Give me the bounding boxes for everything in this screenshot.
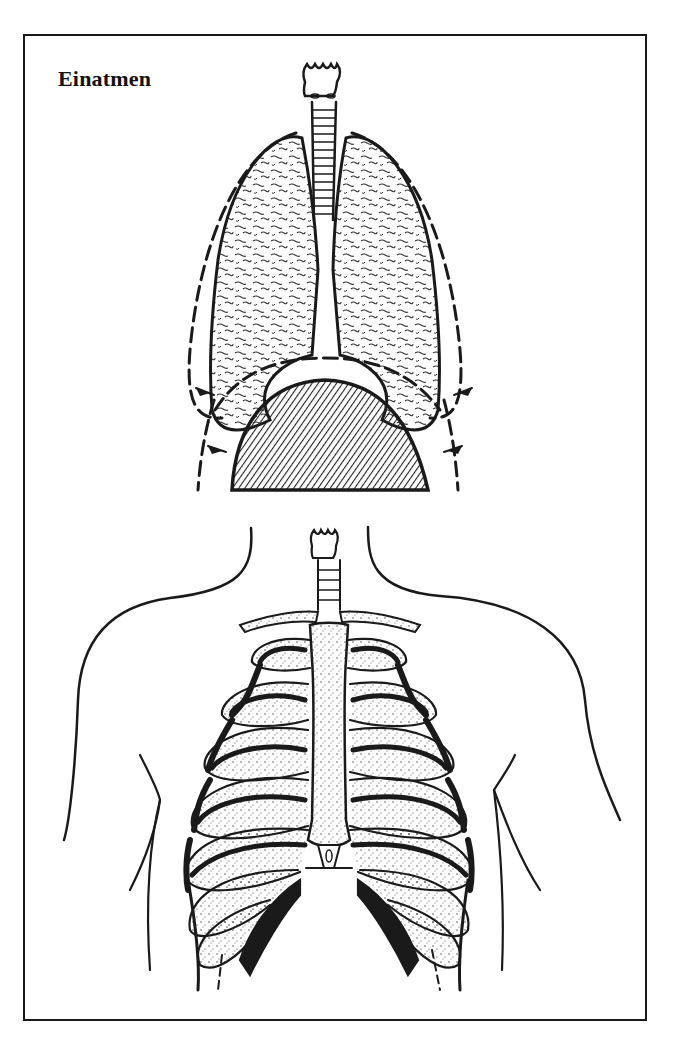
larynx-icon — [303, 64, 340, 98]
left-clavicle — [240, 612, 318, 632]
ribs-right — [348, 639, 472, 975]
lungs-diagram — [189, 64, 472, 490]
xiphoid-process — [318, 845, 340, 868]
ribs-left — [186, 639, 310, 975]
right-clavicle — [340, 612, 420, 632]
ribcage-diagram — [64, 527, 620, 990]
trachea-icon — [312, 102, 336, 220]
